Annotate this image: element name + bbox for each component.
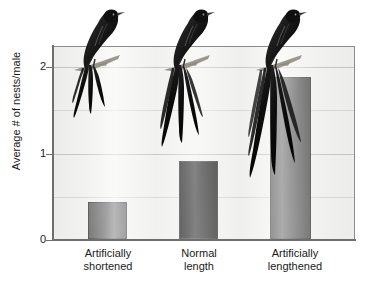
x-label-artificially-lengthened: Artificially lengthened [245,247,345,272]
x-label-line-1: Artificially [62,247,154,260]
x-axis-line [52,239,356,241]
x-label-line-2: shortened [62,260,154,273]
y-axis-ticks: 2 1 0 [0,0,46,281]
y-tick-label-1: 1 [28,148,46,159]
bar-artificially-shortened [88,202,127,239]
bird-normal-tail-illustration [152,2,232,162]
x-label-line-1: Normal [153,247,245,260]
bird-long-tail-illustration [244,2,330,188]
x-label-line-2: lengthened [245,260,345,273]
widowbird-nest-count-chart: Average # of nests/male 2 1 0 Artificial… [0,0,369,281]
y-axis-line [52,45,54,241]
x-label-line-1: Artificially [245,247,345,260]
y-tick-label-0: 0 [28,234,46,245]
x-label-line-2: length [153,260,245,273]
bird-short-tail-illustration [62,2,140,134]
bar-normal-length [179,161,218,239]
x-label-normal-length: Normal length [153,247,245,272]
y-tick-label-2: 2 [28,61,46,72]
x-label-artificially-shortened: Artificially shortened [62,247,154,272]
